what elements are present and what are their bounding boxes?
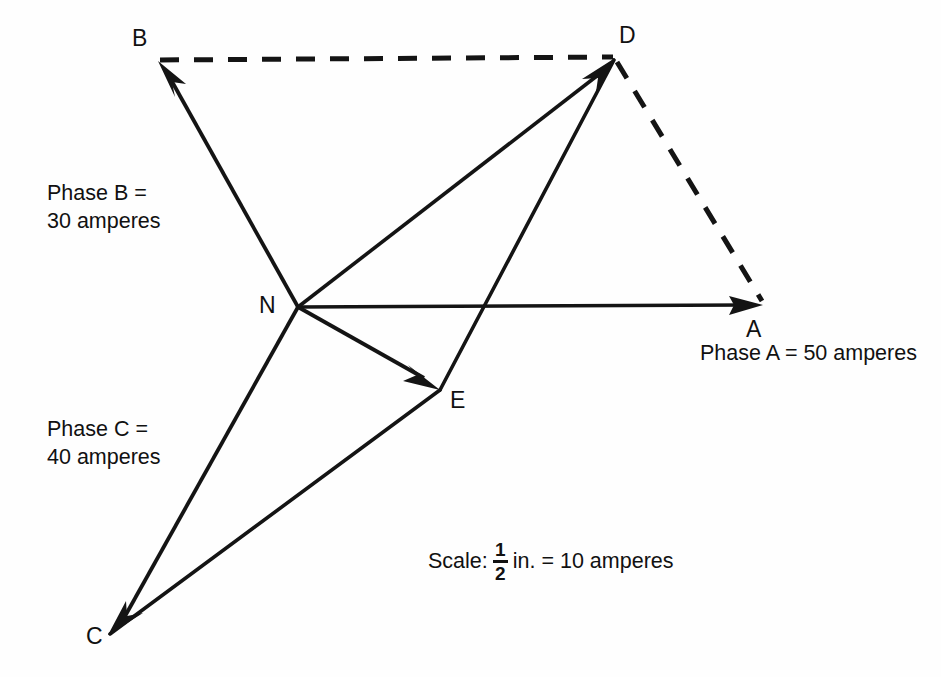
phase-c-annotation: Phase C = 40 amperes bbox=[47, 416, 161, 471]
phasor-diagram-canvas: B D N A E C Phase B = 30 amperes Phase C… bbox=[0, 0, 941, 677]
line-e-to-d bbox=[440, 60, 614, 390]
scale-fraction-denominator: 2 bbox=[493, 564, 508, 583]
scale-fraction-numerator: 1 bbox=[493, 540, 508, 559]
scale-annotation: Scale: 1 2 in. = 10 amperes bbox=[428, 540, 674, 583]
vector-shaft-n-to-e bbox=[298, 307, 424, 378]
phase-b-annotation: Phase B = 30 amperes bbox=[47, 180, 161, 235]
scale-prefix: Scale: bbox=[428, 551, 488, 573]
vector-shaft-n-to-d bbox=[298, 72, 602, 307]
vertex-label-b: B bbox=[132, 27, 147, 50]
scale-fraction: 1 2 bbox=[493, 540, 508, 583]
vector-shaft-n-to-b bbox=[170, 78, 298, 307]
scale-suffix: in. = 10 amperes bbox=[513, 551, 674, 573]
vertex-label-a: A bbox=[746, 318, 761, 341]
arrowhead-d bbox=[582, 58, 615, 92]
vertex-label-d: D bbox=[619, 24, 636, 47]
vertex-label-n: N bbox=[259, 294, 276, 317]
vector-shaft-n-to-a bbox=[298, 305, 745, 307]
dashed-line-d-to-a bbox=[617, 62, 762, 301]
phase-a-annotation: Phase A = 50 amperes bbox=[700, 340, 917, 368]
dashed-line-b-to-d bbox=[160, 57, 613, 60]
arrowhead-c bbox=[108, 601, 143, 635]
vertex-label-e: E bbox=[450, 389, 465, 412]
vertex-label-c: C bbox=[86, 625, 103, 648]
arrowhead-b bbox=[158, 61, 186, 97]
